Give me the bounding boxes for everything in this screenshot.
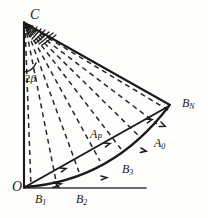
- label-B-3: B3: [122, 163, 133, 177]
- label-A-0: A0: [154, 137, 165, 151]
- arc-tick-4: [159, 122, 165, 127]
- label-angle-2beta: 2β: [25, 73, 36, 84]
- label-A-P: AP: [90, 128, 102, 142]
- chord-tick-1: [60, 168, 66, 172]
- label-B-N: BN: [182, 97, 195, 111]
- figure-canvas: [0, 0, 208, 218]
- chord-tick-2: [104, 143, 110, 147]
- label-O: O: [12, 180, 22, 194]
- dashed-ray-8: [25, 24, 168, 110]
- arc-tick-marks: [55, 122, 165, 187]
- dashed-ray-2: [25, 24, 56, 181]
- arc-tick-3: [140, 148, 146, 152]
- label-B-2: B2: [76, 193, 87, 207]
- dashed-ray-fan: [25, 24, 168, 187]
- label-B-1: B1: [35, 193, 46, 207]
- arc-tick-2: [101, 176, 107, 180]
- dashed-ray-1: [25, 24, 31, 187]
- label-C: C: [30, 8, 39, 22]
- geometry-figure: C O BN AP A0 B3 B1 B2 2β: [0, 0, 208, 218]
- dashed-ray-3: [25, 24, 79, 172]
- chord-tick-3: [146, 119, 152, 123]
